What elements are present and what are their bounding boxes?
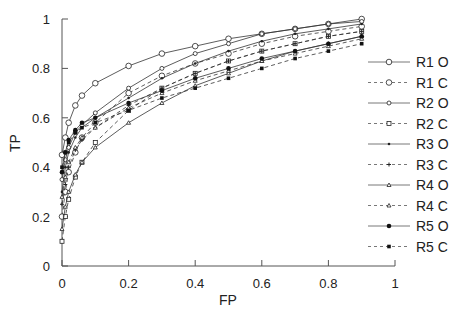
legend-item: R4 O — [368, 177, 449, 193]
x-axis-label: FP — [219, 292, 237, 308]
legend-item: R1 C — [368, 75, 448, 91]
legend-item: R5 O — [368, 218, 449, 234]
x-tick-label: 1 — [391, 276, 398, 291]
legend-label: R4 C — [416, 198, 448, 214]
x-tick-label: 0.2 — [120, 276, 138, 291]
y-tick-label: 0.8 — [32, 61, 50, 76]
legend-item: R3 C — [368, 157, 448, 173]
y-tick-label: 1 — [43, 12, 50, 27]
legend-item: R5 C — [368, 239, 448, 255]
legend-item: R4 C — [368, 198, 448, 214]
legend-label: R2 C — [416, 116, 448, 132]
y-tick-label: 0.2 — [32, 210, 50, 225]
series-r5-o — [60, 34, 364, 174]
legend-label: R5 O — [416, 218, 449, 234]
legend-item: R1 O — [368, 54, 449, 70]
plot-area — [59, 16, 364, 243]
x-tick-label: 0.4 — [186, 276, 204, 291]
series-r4-c — [60, 37, 364, 199]
legend-label: R5 C — [416, 239, 448, 255]
legend-label: R3 O — [416, 136, 449, 152]
series-r1-o — [59, 16, 364, 157]
x-tick-label: 0.6 — [253, 276, 271, 291]
roc-chart: 00.20.40.60.81 00.20.40.60.81 FP TP R1 O… — [0, 0, 459, 323]
x-axis-ticks: 00.20.40.60.81 — [58, 260, 398, 291]
y-tick-label: 0.6 — [32, 111, 50, 126]
series-r2-c — [60, 29, 364, 243]
y-axis-ticks: 00.20.40.60.81 — [32, 12, 68, 274]
y-axis-label: TP — [7, 134, 23, 152]
x-tick-label: 0.8 — [319, 276, 337, 291]
legend-item: R3 O — [368, 136, 449, 152]
legend-label: R3 C — [416, 157, 448, 173]
y-tick-label: 0.4 — [32, 160, 50, 175]
legend-label: R1 O — [416, 54, 449, 70]
legend-label: R4 O — [416, 177, 449, 193]
legend: R1 OR1 CR2 OR2 CR3 OR3 CR4 OR4 CR5 OR5 C — [368, 54, 449, 255]
legend-label: R1 C — [416, 75, 448, 91]
series-r2-o — [60, 19, 364, 181]
series-r3-c — [60, 29, 364, 206]
x-tick-label: 0 — [58, 276, 65, 291]
y-tick-label: 0 — [43, 259, 50, 274]
legend-item: R2 O — [368, 95, 449, 111]
legend-item: R2 C — [368, 116, 448, 132]
legend-label: R2 O — [416, 95, 449, 111]
